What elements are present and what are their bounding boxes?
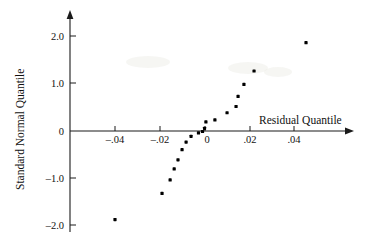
x-tick-label-0: 0: [204, 134, 209, 145]
data-point: [204, 120, 207, 123]
x-axis-title: Residual Quantile: [259, 114, 342, 126]
data-point: [234, 105, 237, 108]
x-tick-label-minus02: –.02: [150, 134, 169, 145]
data-point: [236, 95, 239, 98]
y-tick-label-1: 1.0: [51, 78, 64, 89]
y-tick-label-minus2: –2.0: [45, 220, 64, 231]
data-point: [304, 41, 307, 44]
data-point: [225, 111, 228, 114]
data-point: [203, 127, 206, 130]
data-point: [176, 158, 179, 161]
x-tick-label-04: .04: [287, 134, 301, 145]
data-point: [113, 218, 116, 221]
data-point: [180, 148, 183, 151]
y-axis-tick-labels: 2.0 1.0 0 –1.0 –2.0: [45, 31, 64, 231]
y-tick-label-2: 2.0: [51, 31, 64, 42]
scan-artifacts: [126, 56, 292, 77]
data-point: [160, 192, 163, 195]
y-tick-label-minus1: –1.0: [45, 173, 64, 184]
scatter-plot-canvas: 2.0 1.0 0 –1.0 –2.0 –.04 –.02 0 .02 .04 …: [0, 0, 365, 245]
data-point: [213, 118, 216, 121]
data-point: [173, 167, 176, 170]
data-point: [197, 131, 200, 134]
y-axis-arrowhead: [67, 10, 74, 19]
data-point: [242, 83, 245, 86]
x-axis-arrowhead: [345, 128, 354, 135]
data-point: [169, 178, 172, 181]
data-point: [185, 140, 188, 143]
x-tick-label-02: .02: [243, 134, 256, 145]
qq-plot-figure: 2.0 1.0 0 –1.0 –2.0 –.04 –.02 0 .02 .04 …: [0, 0, 365, 245]
y-axis-title: Standard Normal Quantile: [14, 69, 26, 190]
data-point: [201, 130, 204, 133]
data-point: [252, 69, 255, 72]
x-axis-tick-labels: –.04 –.02 0 .02 .04: [105, 134, 302, 145]
y-tick-label-0: 0: [59, 126, 64, 137]
x-tick-label-minus04: –.04: [105, 134, 125, 145]
data-point: [189, 135, 192, 138]
